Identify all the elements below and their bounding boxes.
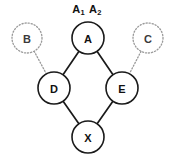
edge-e-x <box>97 101 113 124</box>
graph-svg: ABCDEX <box>0 0 174 157</box>
node-a[interactable]: A <box>72 22 104 54</box>
node-label-b: B <box>23 33 31 45</box>
edge-a-d <box>63 51 79 75</box>
node-label-e: E <box>118 83 125 95</box>
node-c[interactable]: C <box>133 23 163 53</box>
node-label-d: D <box>50 83 58 95</box>
edge-d-x <box>63 101 79 124</box>
node-label-x: X <box>84 132 92 144</box>
node-b[interactable]: B <box>12 23 42 53</box>
edge-a-e <box>97 51 113 75</box>
edge-c-e <box>129 51 141 73</box>
node-label-c: C <box>144 33 152 45</box>
node-e[interactable]: E <box>106 72 138 104</box>
diagram-canvas: A1A2 ABCDEX <box>0 0 174 157</box>
node-d[interactable]: D <box>38 72 70 104</box>
node-layer: ABCDEX <box>12 22 163 153</box>
node-x[interactable]: X <box>72 121 104 153</box>
edge-b-d <box>34 51 46 74</box>
node-label-a: A <box>84 33 92 45</box>
